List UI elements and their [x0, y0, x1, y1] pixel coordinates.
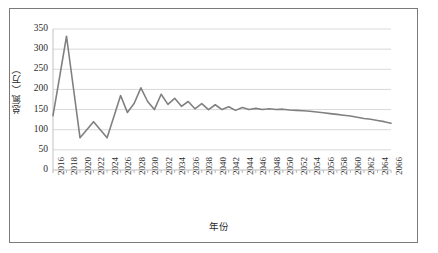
- axis-lines: [53, 29, 391, 173]
- data-series-line: [53, 36, 391, 138]
- line-chart-plot: [0, 0, 438, 253]
- grid-lines: [53, 29, 391, 170]
